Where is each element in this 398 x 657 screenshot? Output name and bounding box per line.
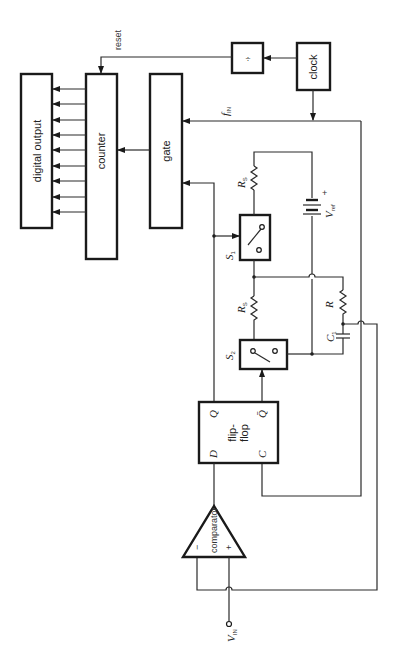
vref-label: Vref xyxy=(323,204,336,218)
reset-wire xyxy=(101,57,232,73)
q-output-wire xyxy=(183,183,214,402)
gate-label: gate xyxy=(160,140,172,161)
s2-label: S2 xyxy=(223,351,236,361)
fin-label: fIN xyxy=(219,107,232,116)
vf-converter-diagram: digital output counter gate ÷ clock rese… xyxy=(0,0,398,657)
r-label: R xyxy=(323,301,335,309)
vin-terminal xyxy=(227,622,232,627)
reset-label: reset xyxy=(113,29,123,50)
s1-label: S1 xyxy=(223,251,236,261)
pin-q: Q xyxy=(207,410,219,418)
comparator-plus: + xyxy=(224,545,234,550)
switch-s1: S1 xyxy=(223,215,270,260)
divider-block: ÷ xyxy=(232,43,263,73)
counter-block: counter xyxy=(86,74,117,259)
resistor-rs-bottom xyxy=(251,296,257,340)
battery-vref: + Vref xyxy=(303,188,336,218)
clock-label: clock xyxy=(307,54,319,80)
rs-top-label: RS xyxy=(235,177,248,189)
switch-s2: S2 xyxy=(223,340,312,369)
comparator-label: comparator xyxy=(209,507,219,553)
flip-flop-label-1: flip- xyxy=(226,424,238,442)
c1-label: C1 xyxy=(324,331,337,342)
gate-block: gate xyxy=(150,74,182,228)
digital-output-label: digital output xyxy=(31,120,43,182)
pin-d: D xyxy=(207,450,219,459)
comparator-minus: − xyxy=(192,545,202,550)
vin-label: VIN xyxy=(225,629,238,642)
rs-bottom-label: RS xyxy=(235,302,248,314)
flip-flop-block: flip- flop Q Q̄ D C xyxy=(199,402,278,463)
output-bit-arrows xyxy=(53,89,86,212)
vref-plus: + xyxy=(322,188,327,198)
capacitor-c1: C1 xyxy=(312,324,350,354)
pin-c: C xyxy=(256,450,268,458)
divider-symbol: ÷ xyxy=(246,54,251,64)
pin-qbar: Q̄ xyxy=(256,410,268,418)
resistor-r xyxy=(340,290,346,324)
flip-flop-label-2: flop xyxy=(238,424,250,442)
counter-label: counter xyxy=(95,132,107,169)
resistor-rs-top xyxy=(251,166,257,190)
clock-block: clock xyxy=(297,43,330,90)
digital-output-block: digital output xyxy=(21,74,52,228)
comparator: comparator − + xyxy=(183,506,245,557)
